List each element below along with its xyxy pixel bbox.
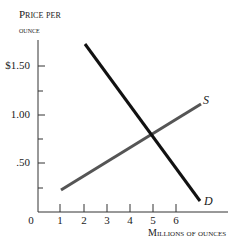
x-tick-label-1: 1 (54, 214, 66, 226)
y-axis-label-line2: ounce (19, 25, 40, 35)
supply-curve (61, 104, 201, 190)
x-tick-label-0: 0 (25, 214, 37, 226)
demand-curve (85, 44, 200, 201)
y-tick-label-150: $1.50 (0, 59, 30, 71)
supply-label: S (203, 93, 209, 108)
x-ticks (60, 204, 176, 212)
x-tick-label-5: 5 (147, 214, 159, 226)
y-major-ticks (38, 66, 45, 163)
x-tick-label-6: 6 (170, 214, 182, 226)
y-axis-label-line1: Price per (19, 8, 61, 20)
x-tick-label-4: 4 (124, 214, 136, 226)
y-minor-ticks (38, 91, 43, 188)
y-tick-label-050: .50 (0, 156, 30, 168)
x-tick-label-3: 3 (101, 214, 113, 226)
x-tick-label-2: 2 (78, 214, 90, 226)
demand-label: D (204, 194, 213, 209)
x-axis-label: Millions of ounces (148, 227, 226, 238)
y-tick-label-100: 1.00 (0, 108, 30, 120)
